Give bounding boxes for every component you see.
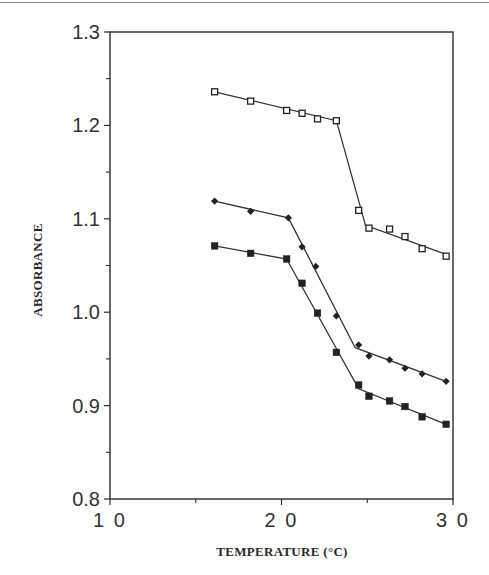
x-tick-label: 2 0 [265, 509, 299, 531]
x-axis-title: TEMPERATURE (°C) [216, 544, 347, 559]
x-tick-label: 3 0 [436, 509, 470, 531]
y-tick-label: 1.0 [72, 301, 100, 323]
filled-square-marker [443, 421, 450, 428]
absorbance-vs-temperature-chart: 0.80.91.01.11.21.31 02 03 0 TEMPERATURE … [0, 0, 489, 575]
filled-square-marker [314, 310, 321, 317]
open-square-marker [387, 226, 393, 232]
open-square-marker [299, 110, 305, 116]
open-square-marker [212, 89, 218, 95]
fit-lines [215, 92, 447, 425]
open-square-marker [356, 207, 362, 213]
open-square-marker [333, 118, 339, 124]
filled-diamond-marker [211, 197, 218, 204]
y-tick-label: 0.9 [72, 395, 100, 417]
open-square-marker [248, 98, 254, 104]
x-tick-label: 1 0 [93, 509, 127, 531]
filled-square-marker [355, 382, 362, 389]
fit-line [215, 246, 447, 424]
open-square-marker [443, 253, 449, 259]
filled-square-marker [402, 403, 409, 410]
filled-diamond-marker [386, 356, 393, 363]
y-axis-title: ABSORBANCE [30, 223, 45, 316]
open-square-marker [402, 234, 408, 240]
fit-line [215, 92, 447, 255]
axes: 0.80.91.01.11.21.31 02 03 0 [72, 21, 470, 531]
filled-square-marker [386, 398, 393, 405]
filled-square-marker [283, 256, 290, 263]
y-tick-label: 1.1 [72, 208, 100, 230]
y-tick-label: 1.2 [72, 114, 100, 136]
filled-square-marker [299, 280, 306, 287]
data-markers [211, 89, 450, 428]
open-square-marker [419, 246, 425, 252]
filled-square-marker [333, 349, 340, 356]
filled-square-marker [366, 393, 373, 400]
filled-diamond-marker [333, 312, 340, 319]
filled-square-marker [419, 414, 426, 421]
y-tick-label: 1.3 [72, 21, 100, 43]
open-square-marker [366, 225, 372, 231]
filled-square-marker [247, 250, 254, 257]
filled-diamond-marker [312, 263, 319, 270]
y-tick-label: 0.8 [72, 488, 100, 510]
filled-square-marker [211, 243, 218, 250]
plot-frame [110, 32, 453, 499]
filled-diamond-marker [285, 214, 292, 221]
fit-line [215, 201, 447, 381]
open-square-marker [284, 107, 290, 113]
filled-diamond-marker [443, 378, 450, 385]
open-square-marker [315, 116, 321, 122]
